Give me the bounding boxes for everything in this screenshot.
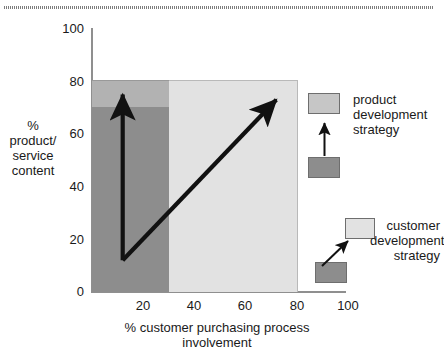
x-axis-title-line-1: % customer purchasing process	[72, 320, 362, 335]
x-tick-60: 60	[228, 298, 262, 313]
y-axis-title-line-3: service	[4, 148, 62, 163]
legend-product-swatch-top	[308, 93, 340, 114]
y-tick-100: 100	[54, 21, 84, 36]
y-axis-title-line-4: content	[4, 163, 62, 178]
legend-product-label-line-3: strategy	[353, 122, 439, 137]
y-axis-title-line-1: %	[4, 118, 62, 133]
legend-product-swatch-bottom	[308, 157, 340, 178]
legend-customer-arrow-icon	[320, 234, 358, 268]
y-tick-80: 80	[54, 74, 84, 89]
customer-development-arrow	[123, 100, 277, 260]
legend-product-development: product development strategy	[308, 92, 436, 192]
legend-customer-label-line-1: customer	[370, 218, 440, 233]
legend-product-label-line-1: product	[353, 92, 439, 107]
y-tick-0: 0	[54, 284, 84, 299]
legend-product-label: product development strategy	[353, 92, 439, 137]
legend-customer-label: customer development strategy	[370, 218, 440, 263]
y-axis-title: % product/ service content	[4, 118, 62, 178]
x-axis-title: % customer purchasing process involvemen…	[72, 320, 362, 350]
legend-customer-label-line-3: strategy	[370, 248, 440, 263]
legend-product-arrow-icon	[317, 114, 333, 158]
x-tick-40: 40	[177, 298, 211, 313]
x-tick-20: 20	[126, 298, 160, 313]
y-tick-20: 20	[54, 232, 84, 247]
legend-customer-label-line-2: development	[370, 233, 440, 248]
y-tick-40: 40	[54, 179, 84, 194]
legend-product-label-line-2: development	[353, 107, 439, 122]
x-axis-title-line-2: involvement	[72, 335, 362, 350]
y-axis-title-line-2: product/	[4, 133, 62, 148]
legend-customer-development: customer development strategy	[300, 218, 438, 308]
